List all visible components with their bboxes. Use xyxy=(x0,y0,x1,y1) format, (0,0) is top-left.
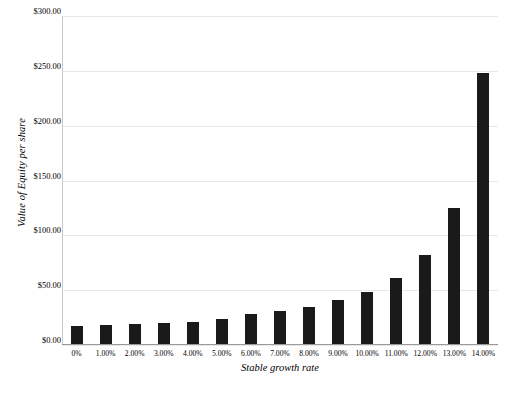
y-axis-tick-label: $200.00 xyxy=(28,116,61,126)
x-axis-title: Stable growth rate xyxy=(62,362,498,373)
bar-slot xyxy=(178,16,207,345)
x-axis-tick-label: 13.00% xyxy=(440,347,469,361)
bar-slot xyxy=(382,16,411,345)
bar-slot xyxy=(62,16,91,345)
y-axis-title-label: Value of Equity per share xyxy=(16,118,27,227)
x-axis-tick-label: 8.00% xyxy=(295,347,324,361)
bar xyxy=(245,314,257,345)
bar xyxy=(361,292,373,345)
bar xyxy=(274,311,286,345)
gridline xyxy=(62,345,498,346)
x-axis-tick-label: 11.00% xyxy=(382,347,411,361)
y-axis-tick-label: $0.00 xyxy=(28,335,61,345)
y-axis-tick-label: $150.00 xyxy=(28,171,61,181)
bar-slot xyxy=(236,16,265,345)
bar xyxy=(332,300,344,345)
bar xyxy=(303,307,315,345)
bar xyxy=(71,326,83,345)
bar xyxy=(100,325,112,345)
y-axis-tick-label: $100.00 xyxy=(28,225,61,235)
bar-slot xyxy=(120,16,149,345)
bar-slot xyxy=(295,16,324,345)
x-axis-tick-label: 6.00% xyxy=(236,347,265,361)
x-axis-tick-label: 10.00% xyxy=(353,347,382,361)
bar xyxy=(390,278,402,345)
y-axis-tick-labels: $0.00$50.00$100.00$150.00$200.00$250.00$… xyxy=(28,11,61,345)
bar-slot xyxy=(265,16,294,345)
x-axis-tick-label: 3.00% xyxy=(149,347,178,361)
bar-slot xyxy=(353,16,382,345)
bar xyxy=(129,324,141,345)
x-axis-tick-label: 9.00% xyxy=(324,347,353,361)
bar xyxy=(419,255,431,345)
x-axis-tick-labels: 0%1.00%2.00%3.00%4.00%5.00%6.00%7.00%8.0… xyxy=(62,347,498,361)
bar xyxy=(187,322,199,345)
bar-slot xyxy=(149,16,178,345)
bar-chart-figure: Value of Equity per share $0.00$50.00$10… xyxy=(0,0,514,393)
y-axis-tick-label: $300.00 xyxy=(28,6,61,16)
bar-slot xyxy=(411,16,440,345)
x-axis-tick-label: 7.00% xyxy=(265,347,294,361)
bar-slot xyxy=(469,16,498,345)
y-axis-tick-label: $250.00 xyxy=(28,61,61,71)
x-axis-tick-label: 4.00% xyxy=(178,347,207,361)
x-axis-tick-label: 2.00% xyxy=(120,347,149,361)
x-axis-tick-label: 1.00% xyxy=(91,347,120,361)
bar-slot xyxy=(440,16,469,345)
y-axis-tick-label: $50.00 xyxy=(28,280,61,290)
bar xyxy=(158,323,170,345)
x-axis-line xyxy=(62,344,498,345)
x-axis-tick-label: 12.00% xyxy=(411,347,440,361)
bar-slot xyxy=(207,16,236,345)
bar xyxy=(477,73,489,345)
bar-series xyxy=(62,16,498,345)
bar-slot xyxy=(324,16,353,345)
bar xyxy=(216,319,228,345)
bar xyxy=(448,208,460,345)
plot-area xyxy=(62,16,498,345)
x-axis-tick-label: 0% xyxy=(62,347,91,361)
x-axis-tick-label: 5.00% xyxy=(207,347,236,361)
bar-slot xyxy=(91,16,120,345)
x-axis-tick-label: 14.00% xyxy=(469,347,498,361)
